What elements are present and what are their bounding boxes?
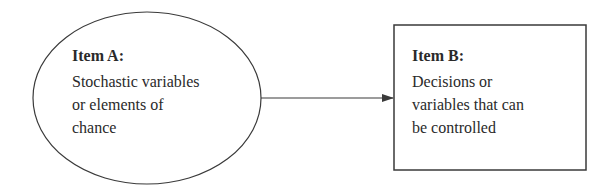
item-a-line-2: or elements of — [72, 93, 200, 116]
item-b-line-1: Decisions or — [412, 70, 524, 93]
item-a-text: Item A: Stochastic variables or elements… — [72, 44, 200, 139]
item-a-title: Item A: — [72, 44, 200, 67]
item-b-line-3: be controlled — [412, 116, 524, 139]
item-a-line-1: Stochastic variables — [72, 70, 200, 93]
item-b-title: Item B: — [412, 44, 524, 67]
item-a-line-3: chance — [72, 116, 200, 139]
item-b-text: Item B: Decisions or variables that can … — [412, 44, 524, 139]
item-b-line-2: variables that can — [412, 93, 524, 116]
